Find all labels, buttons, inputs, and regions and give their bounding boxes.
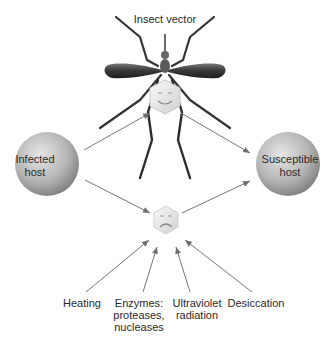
arrow-infected-to-vector: [84, 113, 150, 150]
factor-heating: Heating: [62, 297, 102, 309]
factor-enzymes: Enzymes: proteases, nucleases: [112, 297, 166, 333]
virus-in-vector: [150, 80, 180, 114]
arrow-desiccation: [185, 240, 252, 292]
arrow-environment-to-susceptible: [182, 181, 250, 213]
arrow-infected-to-environment: [85, 180, 150, 213]
factor-heating-text: Heating: [62, 297, 102, 309]
infected-host-label: Infected host: [5, 153, 65, 179]
arrow-uv: [176, 247, 190, 292]
factor-desiccation: Desiccation: [226, 297, 286, 309]
factor-ultraviolet: Ultraviolet radiation: [171, 297, 223, 321]
arrow-enzymes: [143, 247, 157, 292]
factor-enzymes-line2: proteases,: [112, 309, 166, 321]
infected-host-line1: Infected: [5, 153, 65, 166]
infected-host-line2: host: [5, 166, 65, 179]
mosquito-left-wing: [105, 64, 162, 79]
susceptible-host-label: Susceptible host: [255, 153, 325, 179]
arrow-heating: [86, 240, 149, 292]
insect-vector-label: Insect vector: [115, 13, 215, 25]
factor-uv-line2: radiation: [171, 309, 223, 321]
mosquito-right-wing: [168, 64, 225, 79]
factor-desiccation-text: Desiccation: [226, 297, 286, 309]
factor-uv-line1: Ultraviolet: [171, 297, 223, 309]
factor-enzymes-line1: Enzymes:: [112, 297, 166, 309]
virus-in-environment: [154, 206, 178, 234]
susceptible-host-line1: Susceptible: [255, 153, 325, 166]
diagram-canvas: Insect vector Infected host Susceptible …: [0, 0, 330, 340]
susceptible-host-line2: host: [255, 166, 325, 179]
factor-enzymes-line3: nucleases: [112, 321, 166, 333]
